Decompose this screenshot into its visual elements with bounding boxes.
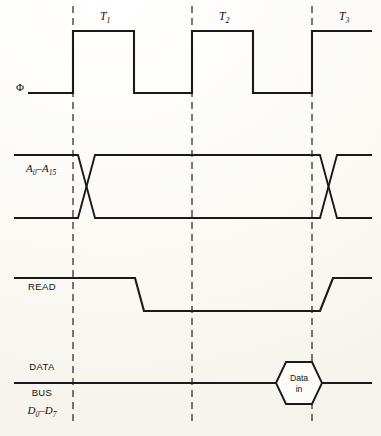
read-signal-group: READ <box>14 278 372 311</box>
read-waveform <box>14 278 372 311</box>
address-bus-group: A0–A15 <box>14 155 372 218</box>
timing-diagram-figure: T1 T2 T3 Φ A0–A15 READ <box>0 0 381 436</box>
data-in-symbol <box>276 362 322 404</box>
address-bus-lower-trace <box>14 155 372 218</box>
data-bus-label-line3: D0–D7 <box>27 404 58 419</box>
cycle-label-t2: T2 <box>219 10 229 25</box>
address-bus-upper-trace <box>14 155 372 218</box>
clock-label: Φ <box>16 81 24 93</box>
clock-waveform <box>28 31 372 93</box>
data-bus-group: DATA BUS D0–D7 Data in <box>14 361 372 419</box>
data-bus-label-line1: DATA <box>29 361 55 372</box>
read-label: READ <box>28 281 56 292</box>
data-in-text-line1: Data <box>290 373 308 383</box>
data-bus-label-line2: BUS <box>32 387 53 398</box>
address-bus-label: A0–A15 <box>25 162 57 177</box>
clock-signal-group: Φ <box>16 31 372 93</box>
cycle-label-t3: T3 <box>339 10 349 25</box>
data-in-text-line2: in <box>296 384 303 394</box>
cycle-label-t1: T1 <box>100 10 110 25</box>
